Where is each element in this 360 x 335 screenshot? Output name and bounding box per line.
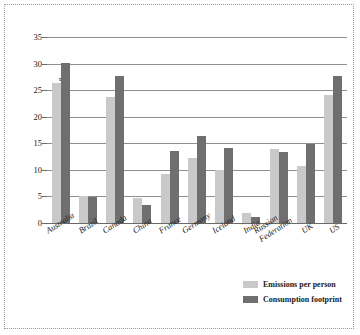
x-label-australia: Australia — [47, 226, 74, 286]
bar-brazil-emissions-per-person — [79, 196, 88, 223]
y-tick-label-5: 5 — [14, 192, 42, 200]
x-label-brazil: Brazil — [74, 226, 101, 286]
bar-australia-emissions-per-person — [52, 83, 61, 223]
bar-group-uk — [292, 37, 319, 223]
bar-group-germany — [183, 37, 210, 223]
bar-group-australia — [47, 37, 74, 223]
x-label-germany: Germany — [183, 226, 210, 286]
bar-iceland-consumption-footprint — [224, 148, 233, 223]
x-label-uk: UK — [292, 226, 319, 286]
x-label-us: US — [320, 226, 347, 286]
x-label-canada: Canada — [102, 226, 129, 286]
bar-canada-emissions-per-person — [106, 97, 115, 223]
x-label-text: US — [328, 222, 342, 236]
bar-group-russian-federation — [265, 37, 292, 223]
bar-france-emissions-per-person — [161, 174, 170, 223]
y-tick-label-30: 30 — [14, 60, 42, 68]
bar-us-emissions-per-person — [324, 95, 333, 223]
x-label-russian-federation: Russian Federation — [265, 226, 292, 286]
legend-swatch-icon — [243, 281, 258, 288]
y-tick-label-0: 0 — [14, 219, 42, 227]
y-tick-label-20: 20 — [14, 113, 42, 121]
legend-label: Emissions per person — [263, 280, 336, 289]
y-tick-label-35: 35 — [14, 33, 42, 41]
chart-legend: Emissions per personConsumption footprin… — [243, 280, 353, 310]
plot-area: tonnes CO2e 05101520253035 — [47, 37, 347, 224]
x-label-france: France — [156, 226, 183, 286]
legend-label: Consumption footprint — [263, 295, 342, 304]
bar-group-china — [129, 37, 156, 223]
bar-group-india — [238, 37, 265, 223]
bar-groups — [47, 37, 347, 223]
bar-group-canada — [102, 37, 129, 223]
bar-germany-emissions-per-person — [188, 158, 197, 223]
y-tick-label-15: 15 — [14, 139, 42, 147]
x-axis-categories: AustraliaBrazilCanadaChinaFranceGermanyI… — [47, 226, 347, 286]
bar-australia-consumption-footprint — [61, 63, 70, 223]
x-label-china: China — [129, 226, 156, 286]
x-label-iceland: Iceland — [211, 226, 238, 286]
bar-group-iceland — [211, 37, 238, 223]
y-tick-label-25: 25 — [14, 86, 42, 94]
bar-canada-consumption-footprint — [115, 76, 124, 223]
bar-group-brazil — [74, 37, 101, 223]
chart-frame: tonnes CO2e 05101520253035 AustraliaBraz… — [4, 4, 354, 329]
bar-iceland-emissions-per-person — [215, 170, 224, 223]
legend-swatch-icon — [243, 296, 258, 303]
bar-group-france — [156, 37, 183, 223]
bar-group-us — [320, 37, 347, 223]
legend-item-emissions-per-person[interactable]: Emissions per person — [243, 280, 353, 289]
legend-item-consumption-footprint[interactable]: Consumption footprint — [243, 295, 353, 304]
y-tick-label-10: 10 — [14, 166, 42, 174]
bar-us-consumption-footprint — [333, 76, 342, 223]
bar-uk-consumption-footprint — [306, 144, 315, 223]
